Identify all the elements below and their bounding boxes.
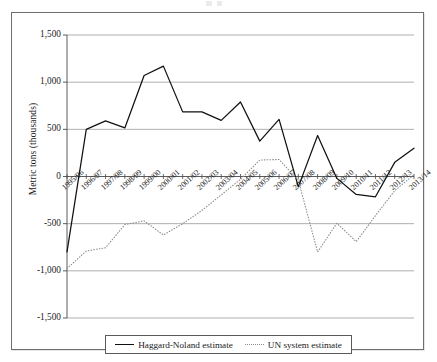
chart-area: Metric tons (thousands) 1,5001,0005000-5… (12, 13, 425, 351)
figure-frame: Metric tons (thousands) 1,5001,0005000-5… (11, 12, 424, 350)
legend-item-un-system: UN system estimate (245, 340, 342, 350)
page-bleed-artifact (206, 1, 228, 6)
y-tick-label: -1,000 (17, 265, 61, 275)
y-tick-label: 1,000 (17, 76, 61, 86)
series-line-haggard-noland (67, 66, 414, 252)
legend-item-haggard-noland: Haggard-Noland estimate (115, 340, 233, 350)
legend-swatch-solid-line-icon (115, 344, 134, 345)
y-tick-label: -1,500 (17, 312, 61, 322)
legend-label-un-system: UN system estimate (268, 340, 342, 350)
y-tick-label: 500 (17, 123, 61, 133)
chart-legend: Haggard-Noland estimate UN system estima… (105, 335, 352, 354)
y-tick-label: 1,500 (17, 29, 61, 39)
y-tick-label: 0 (17, 171, 61, 181)
legend-swatch-dotted-line-icon (245, 344, 264, 345)
y-tick-label: -500 (17, 218, 61, 228)
legend-label-haggard-noland: Haggard-Noland estimate (138, 340, 233, 350)
